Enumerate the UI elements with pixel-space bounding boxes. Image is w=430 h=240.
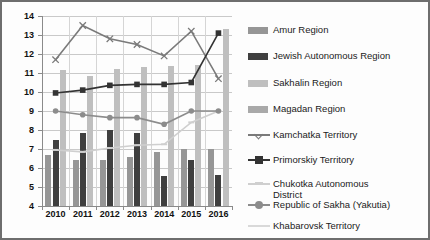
line-marker xyxy=(80,112,86,118)
legend-color-swatch xyxy=(248,53,268,60)
x-axis-tick-mark xyxy=(232,206,233,210)
legend-item[interactable]: Primorskiy Territory xyxy=(248,154,354,165)
line-marker xyxy=(80,22,86,28)
chart-frame: 4567891011121314 20102011201220132014201… xyxy=(0,0,430,240)
legend-color-swatch xyxy=(248,27,268,34)
line-marker xyxy=(161,53,167,59)
line-marker xyxy=(188,28,194,34)
line-marker xyxy=(107,115,113,121)
x-axis-tick-mark xyxy=(151,206,152,210)
chart-legend: Amur RegionJewish Autonomous RegionSakha… xyxy=(248,24,428,208)
line-marker xyxy=(80,87,86,93)
legend-item[interactable]: Republic of Sakha (Yakutia) xyxy=(248,199,390,210)
x-axis-tick-mark xyxy=(178,206,179,210)
x-axis-tick-mark xyxy=(123,206,124,210)
legend-marker-icon xyxy=(255,201,263,209)
legend-line-swatch xyxy=(248,220,270,231)
legend-item-label: Chukotka Autonomous District xyxy=(273,178,369,200)
line-marker xyxy=(52,57,58,63)
lines-layer xyxy=(42,16,232,206)
y-axis-tick-label: 6 xyxy=(29,163,34,173)
line-marker xyxy=(216,30,222,36)
x-axis-tick-label: 2011 xyxy=(73,209,93,219)
y-axis-tick-mark xyxy=(38,111,42,112)
y-axis-tick-label: 4 xyxy=(29,201,34,211)
line-marker xyxy=(188,121,194,123)
legend-marker-icon xyxy=(255,156,263,164)
y-axis-tick-mark xyxy=(38,73,42,74)
legend-item-label: Amur Region xyxy=(273,24,328,35)
line-marker xyxy=(216,108,222,114)
x-axis-tick-mark xyxy=(205,206,206,210)
y-axis-tick-mark xyxy=(38,149,42,150)
line-marker xyxy=(161,82,167,88)
y-axis-tick-label: 7 xyxy=(29,144,34,154)
x-axis-tick-label: 2014 xyxy=(154,209,174,219)
line-marker xyxy=(215,76,221,82)
x-axis-tick-label: 2012 xyxy=(100,209,120,219)
line-marker xyxy=(134,82,140,88)
legend-line-swatch xyxy=(248,199,270,210)
y-axis-tick-mark xyxy=(38,187,42,188)
x-axis-tick-label: 2013 xyxy=(127,209,147,219)
legend-item[interactable]: Jewish Autonomous Region xyxy=(248,50,390,61)
line-marker xyxy=(161,143,167,145)
legend-item-label: Jewish Autonomous Region xyxy=(273,50,390,61)
legend-item-label: Primorskiy Territory xyxy=(273,154,354,165)
y-axis-tick-mark xyxy=(38,54,42,55)
y-axis-tick-label: 9 xyxy=(29,106,34,116)
legend-item[interactable]: Chukotka Autonomous District xyxy=(248,178,369,200)
y-axis-tick-label: 10 xyxy=(24,87,34,97)
legend-item-label: Kamchatka Territory xyxy=(273,129,357,140)
legend-item[interactable]: Magadan Region xyxy=(248,103,345,114)
line-marker xyxy=(161,122,167,128)
line-marker xyxy=(134,144,140,146)
legend-line-swatch xyxy=(248,154,270,165)
y-axis-tick-label: 8 xyxy=(29,125,34,135)
legend-item[interactable]: Amur Region xyxy=(248,24,328,35)
line-marker xyxy=(53,149,59,151)
y-axis-tick-label: 14 xyxy=(24,11,34,21)
x-axis-tick-label: 2015 xyxy=(181,209,201,219)
y-axis-tick-mark xyxy=(38,16,42,17)
legend-color-swatch xyxy=(248,106,268,113)
line-marker xyxy=(188,108,194,114)
plot-area xyxy=(42,16,232,206)
x-axis-tick-mark xyxy=(42,206,43,210)
legend-item[interactable]: Sakhalin Region xyxy=(248,77,342,88)
line-marker xyxy=(80,151,86,153)
y-axis-tick-mark xyxy=(38,35,42,36)
legend-item-label: Sakhalin Region xyxy=(273,77,342,88)
line-marker xyxy=(134,115,140,121)
legend-color-swatch xyxy=(248,80,268,87)
x-axis-tick-mark xyxy=(96,206,97,210)
legend-item-label: Republic of Sakha (Yakutia) xyxy=(273,199,390,210)
y-axis xyxy=(42,16,43,207)
legend-item[interactable]: Kamchatka Territory xyxy=(248,129,357,140)
x-axis-tick-label: 2016 xyxy=(208,209,228,219)
legend-marker-icon xyxy=(254,130,264,140)
line-marker xyxy=(188,80,194,86)
y-axis-tick-mark xyxy=(38,168,42,169)
line-marker xyxy=(107,147,113,149)
line-marker xyxy=(53,108,59,114)
legend-line-swatch xyxy=(248,178,270,189)
y-axis-tick-label: 13 xyxy=(24,30,34,40)
y-axis-tick-mark xyxy=(38,130,42,131)
y-axis-tick-mark xyxy=(38,92,42,93)
y-axis-tick-label: 5 xyxy=(29,182,34,192)
x-axis-tick-label: 2010 xyxy=(46,209,66,219)
legend-item-label: Magadan Region xyxy=(273,103,345,114)
legend-item[interactable]: Khabarovsk Territory xyxy=(248,220,360,231)
x-axis-tick-mark xyxy=(69,206,70,210)
line-marker xyxy=(107,83,113,89)
legend-line-swatch xyxy=(248,129,270,140)
legend-item-label: Khabarovsk Territory xyxy=(273,220,360,231)
line-marker xyxy=(53,90,59,96)
y-axis-tick-label: 12 xyxy=(24,49,34,59)
legend-marker-icon xyxy=(255,182,263,185)
y-axis-tick-label: 11 xyxy=(24,68,34,78)
